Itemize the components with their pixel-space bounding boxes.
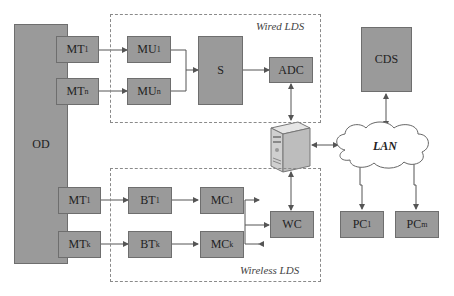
node-mtk: MTk <box>58 231 101 258</box>
node-adc: ADC <box>269 57 313 83</box>
node-mt1-wired: MT1 <box>56 36 99 63</box>
node-s: S <box>198 36 243 105</box>
server-icon <box>271 122 310 172</box>
node-mtn: MTn <box>56 78 99 105</box>
node-lan-label: LAN <box>373 139 397 154</box>
node-pc1: PC1 <box>340 211 384 238</box>
wireless-lds-label: Wireless LDS <box>240 264 299 276</box>
node-pcm: PCm <box>395 211 439 238</box>
node-btk: BTk <box>128 231 172 258</box>
wired-lds-label: Wired LDS <box>256 20 304 32</box>
node-wc: WC <box>270 211 314 238</box>
node-mc1: MC1 <box>200 187 244 214</box>
node-mt1-wireless: MT1 <box>58 187 101 214</box>
node-mun: MUn <box>127 78 171 105</box>
node-cds: CDS <box>361 27 412 92</box>
node-mck: MCk <box>200 231 244 258</box>
node-bt1: BT1 <box>128 187 172 214</box>
node-mu1: MU1 <box>127 36 171 63</box>
